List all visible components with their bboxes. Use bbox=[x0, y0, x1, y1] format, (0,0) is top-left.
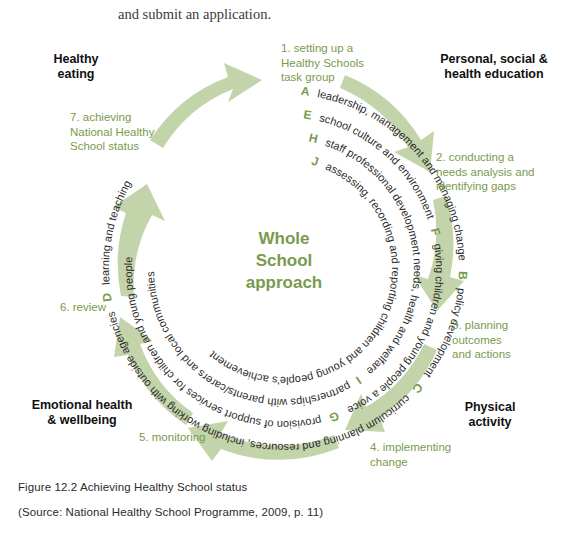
step-label-4: 4. implementing change bbox=[370, 440, 480, 469]
figure-page: and submit an application. bbox=[0, 0, 568, 537]
ring-letter-J: J bbox=[310, 154, 320, 169]
sector-label-line-2: eating bbox=[28, 67, 124, 82]
figure-source: (Source: National Healthy School Program… bbox=[18, 506, 323, 518]
step-label-line-1: 6. review bbox=[60, 300, 150, 315]
step-label-line-1: 4. implementing bbox=[370, 440, 480, 455]
sector-label-line-1: Emotional health bbox=[10, 398, 154, 413]
step-label-line-2: change bbox=[370, 455, 480, 470]
ring-letter-I: I bbox=[353, 374, 364, 387]
centre-label-line-2: School bbox=[224, 250, 344, 272]
sector-label-line-2: activity bbox=[432, 415, 548, 430]
sector-label-pshe: Personal, social & health education bbox=[420, 52, 568, 82]
sector-label-line-2: & wellbeing bbox=[10, 413, 154, 428]
step-label-2: 2. conducting a needs analysis and ident… bbox=[436, 150, 560, 194]
arrow-step-1-to-2 bbox=[340, 75, 434, 172]
body-paragraph-line: and submit an application. bbox=[118, 6, 271, 23]
centre-label-line-1: Whole bbox=[224, 228, 344, 250]
step-label-line-1: 7. achieving bbox=[70, 110, 188, 125]
sector-label-physical-activity: Physical activity bbox=[432, 400, 548, 430]
step-label-line-3: task group bbox=[281, 70, 391, 85]
centre-label-line-3: approach bbox=[224, 272, 344, 294]
centre-label: Whole School approach bbox=[224, 228, 344, 294]
step-label-1: 1. setting up a Healthy Schools task gro… bbox=[281, 41, 391, 85]
arrow-step-2-to-3 bbox=[414, 196, 464, 311]
ring-letter-F: F bbox=[428, 227, 443, 237]
ring-letter-E: E bbox=[302, 107, 312, 122]
step-label-line-2: National Healthy bbox=[70, 125, 188, 140]
sector-label-line-1: Physical bbox=[432, 400, 548, 415]
step-label-line-1: 5. monitoring bbox=[139, 430, 249, 445]
arrow-step-3-to-4 bbox=[345, 344, 437, 432]
ring-letter-G: G bbox=[327, 409, 340, 425]
step-label-line-2: needs analysis and bbox=[436, 165, 560, 180]
sector-label-line-1: Personal, social & bbox=[420, 52, 568, 67]
ring-text-D: learning and teaching bbox=[99, 178, 133, 285]
step-label-line-1: 2. conducting a bbox=[436, 150, 560, 165]
step-label-line-3: School status bbox=[70, 139, 188, 154]
sector-label-line-1: Healthy bbox=[28, 52, 124, 67]
step-label-line-3: identifying gaps bbox=[436, 179, 560, 194]
sector-label-line-2: health education bbox=[420, 67, 568, 82]
sector-label-healthy-eating: Healthy eating bbox=[28, 52, 124, 82]
step-label-5: 5. monitoring bbox=[139, 430, 249, 445]
ring-letter-A: A bbox=[300, 84, 311, 99]
step-label-line-2: Healthy Schools bbox=[281, 56, 391, 71]
step-label-line-1: 3. planning bbox=[452, 318, 548, 333]
ring-text-E: school culture and environment bbox=[318, 111, 437, 220]
step-label-3: 3. planning outcomes and actions bbox=[452, 318, 548, 362]
figure-caption: Figure 12.2 Achieving Healthy School sta… bbox=[18, 481, 247, 493]
sector-label-emotional-health: Emotional health & wellbeing bbox=[10, 398, 154, 428]
step-label-line-2: outcomes bbox=[452, 333, 548, 348]
ring-letter-B: B bbox=[456, 271, 470, 280]
step-label-line-1: 1. setting up a bbox=[281, 41, 391, 56]
step-label-7: 7. achieving National Healthy School sta… bbox=[70, 110, 188, 154]
ring-letter-H: H bbox=[308, 131, 320, 147]
step-label-6: 6. review bbox=[60, 300, 150, 315]
arrow-step-6-to-7 bbox=[113, 184, 165, 297]
ring-letter-C: C bbox=[409, 380, 425, 396]
step-label-line-3: and actions bbox=[452, 347, 548, 362]
ring-text-F: giving children and young people a voice bbox=[346, 243, 446, 417]
